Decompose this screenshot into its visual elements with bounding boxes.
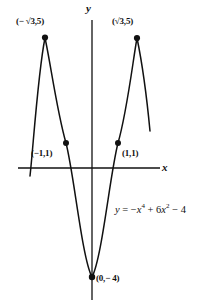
equation-label: y = −x4 + 6x2 − 4: [115, 202, 186, 215]
equation-term2-exponent: 2: [166, 202, 170, 210]
equation-term3-sign: −: [172, 204, 178, 215]
label-right-maximum: (√3,5): [112, 16, 133, 26]
label-right-inflection: (1,1): [122, 148, 138, 158]
y-axis-label: y: [86, 2, 91, 14]
equation-term1-exponent: 4: [141, 202, 145, 210]
label-minimum: (0,− 4): [96, 273, 119, 283]
point-marker-left-max: [42, 34, 48, 40]
equation-equals: =: [122, 204, 128, 215]
label-left-inflection: (−1,1): [31, 148, 52, 158]
point-marker-minimum: [89, 274, 95, 280]
x-axis-label: x: [162, 161, 168, 173]
point-marker-right-inflection: [115, 140, 121, 146]
label-left-maximum: (− √3,5): [16, 16, 44, 26]
point-marker-left-inflection: [63, 140, 69, 146]
equation-term2-sign: +: [148, 204, 154, 215]
equation-term3-value: 4: [181, 204, 186, 215]
point-marker-right-max: [134, 35, 140, 41]
equation-lhs: y: [115, 204, 120, 215]
quartic-function-graph: y x (− √3,5) (√3,5) (−1,1) (1,1) (0,− 4)…: [0, 0, 222, 307]
